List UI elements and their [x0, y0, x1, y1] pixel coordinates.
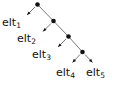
label-subscript-elt5: 5 — [100, 71, 105, 80]
spine-segment-1 — [38, 5, 54, 22]
cons-node-node4 — [80, 50, 85, 55]
label-elt3: elt3 — [32, 48, 51, 62]
label-base-elt3: elt — [32, 48, 47, 61]
label-subscript-elt1: 1 — [16, 21, 21, 30]
label-base-elt5: elt — [86, 66, 101, 79]
label-elt2: elt2 — [17, 32, 36, 46]
cons-node-node2 — [51, 19, 56, 24]
label-base-elt1: elt — [2, 16, 17, 29]
spine-segment-2 — [54, 21, 69, 37]
cons-node-node3 — [66, 34, 71, 39]
label-subscript-elt2: 2 — [31, 37, 36, 46]
label-elt1: elt1 — [2, 16, 21, 30]
label-subscript-elt3: 3 — [46, 53, 51, 62]
diagram-canvas: elt1elt2elt3elt4elt5 — [0, 0, 115, 89]
cons-node-node1 — [35, 2, 40, 7]
spine-segment-3 — [69, 37, 83, 53]
label-base-elt4: elt — [56, 66, 71, 79]
label-elt5: elt5 — [86, 66, 105, 80]
linked-list-diagram: elt1elt2elt3elt4elt5 — [0, 0, 115, 89]
label-elt4: elt4 — [56, 66, 75, 80]
label-group: elt1elt2elt3elt4elt5 — [2, 16, 105, 80]
label-base-elt2: elt — [17, 32, 32, 45]
label-subscript-elt4: 4 — [70, 71, 75, 80]
